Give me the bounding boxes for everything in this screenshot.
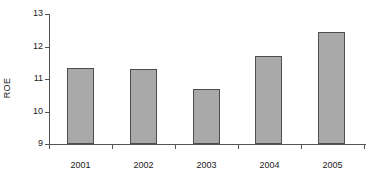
- x-axis-line: [49, 144, 366, 145]
- x-tick-mark: [175, 145, 176, 149]
- bar-2001: [67, 68, 94, 144]
- bar-chart: ROE 13 12 11 10 9: [0, 0, 374, 176]
- y-tick-mark: [45, 14, 49, 15]
- y-axis-line: [49, 14, 50, 145]
- y-tick-label: 13: [33, 7, 43, 20]
- y-tick-label: 11: [34, 72, 43, 85]
- x-tick-mark: [364, 145, 365, 149]
- x-tick-label-2003: 2003: [196, 159, 216, 171]
- bar-2002: [130, 69, 157, 144]
- y-tick-mark: [45, 79, 49, 80]
- y-tick-mark: [45, 112, 49, 113]
- y-tick-label: 10: [33, 105, 43, 118]
- y-tick-label: 12: [33, 40, 43, 53]
- bar-2003: [193, 89, 220, 144]
- bar-2005: [318, 32, 345, 144]
- x-tick-label-2005: 2005: [322, 159, 342, 171]
- x-tick-label-2004: 2004: [259, 159, 279, 171]
- y-tick-mark: [45, 47, 49, 48]
- y-axis-title: ROE: [0, 0, 14, 176]
- x-tick-label-2001: 2001: [70, 159, 90, 171]
- x-tick-mark: [112, 145, 113, 149]
- plot-area: 13 12 11 10 9 2001 200: [49, 14, 366, 145]
- x-tick-mark: [49, 145, 50, 149]
- x-tick-mark: [238, 145, 239, 149]
- x-tick-label-2002: 2002: [133, 159, 153, 171]
- y-tick-label: 9: [38, 137, 43, 150]
- bar-2004: [255, 56, 282, 144]
- x-tick-mark: [301, 145, 302, 149]
